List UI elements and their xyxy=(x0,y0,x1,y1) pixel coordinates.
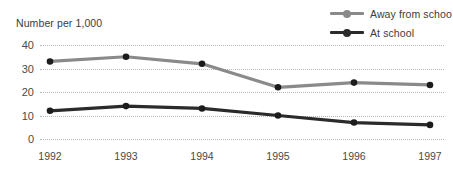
data-point-marker[interactable] xyxy=(427,122,434,129)
data-point-marker[interactable] xyxy=(275,84,282,91)
data-point-marker[interactable] xyxy=(199,61,206,68)
data-point-marker[interactable] xyxy=(427,82,434,89)
data-point-marker[interactable] xyxy=(275,112,282,119)
series-line xyxy=(50,106,430,125)
data-point-marker[interactable] xyxy=(123,103,130,110)
data-point-marker[interactable] xyxy=(47,58,54,65)
data-point-marker[interactable] xyxy=(123,53,130,60)
data-point-marker[interactable] xyxy=(47,108,54,115)
data-point-marker[interactable] xyxy=(351,119,358,126)
line-chart: Away from schoo At school Number per 1,0… xyxy=(0,0,453,177)
data-point-marker[interactable] xyxy=(351,79,358,86)
series-line xyxy=(50,57,430,88)
data-point-marker[interactable] xyxy=(199,105,206,112)
series-lines xyxy=(0,0,453,177)
